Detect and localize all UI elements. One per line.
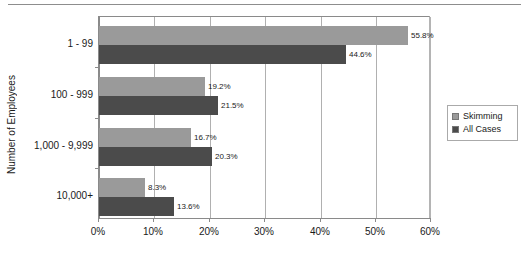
bar-skimming-10000-plus — [99, 178, 145, 197]
bar-all-cases-100-999 — [99, 96, 218, 115]
x-axis-label-30: 30% — [244, 226, 284, 238]
legend-label-skimming: Skimming — [463, 111, 503, 122]
value-label-skimming-10000-plus: 8.3% — [148, 183, 166, 192]
bar-chart: Number of Employees 55.8% 44.6% 19.2% 21… — [0, 0, 529, 262]
x-axis-label-50: 50% — [355, 226, 395, 238]
x-tick-40 — [320, 218, 321, 222]
value-label-all-cases-10000-plus: 13.6% — [177, 202, 200, 211]
value-label-all-cases-1-99: 44.6% — [349, 50, 372, 59]
bar-skimming-1-99 — [99, 26, 408, 45]
y-tick-3 — [95, 168, 99, 169]
x-axis-label-60: 60% — [410, 226, 450, 238]
legend-label-all-cases: All Cases — [463, 124, 501, 135]
category-label-1000-9999: 1,000 - 9,999 — [34, 140, 93, 152]
x-tick-10 — [153, 218, 154, 222]
category-label-10000-plus: 10,000+ — [57, 190, 93, 202]
bar-all-cases-1000-9999 — [99, 147, 212, 166]
value-label-skimming-100-999: 19.2% — [208, 82, 231, 91]
chart-legend: Skimming All Cases — [447, 105, 518, 141]
value-label-all-cases-100-999: 21.5% — [221, 101, 244, 110]
x-axis-label-10: 10% — [133, 226, 173, 238]
category-label-100-999: 100 - 999 — [51, 89, 93, 101]
category-label-1-99: 1 - 99 — [67, 38, 93, 50]
gridline-60 — [430, 17, 431, 219]
x-tick-0 — [98, 218, 99, 222]
x-tick-20 — [209, 218, 210, 222]
plot-area: 55.8% 44.6% 19.2% 21.5% 16.7% 20.3% 8.3%… — [98, 16, 430, 218]
y-tick-2 — [95, 118, 99, 119]
bar-all-cases-10000-plus — [99, 197, 174, 216]
value-label-skimming-1000-9999: 16.7% — [194, 133, 217, 142]
y-tick-1 — [95, 67, 99, 68]
gridline-50 — [376, 17, 377, 219]
value-label-skimming-1-99: 55.8% — [411, 31, 434, 40]
x-tick-30 — [264, 218, 265, 222]
legend-item-all-cases: All Cases — [452, 123, 513, 136]
legend-swatch-icon-skimming — [452, 113, 459, 120]
x-axis-label-20: 20% — [189, 226, 229, 238]
legend-item-skimming: Skimming — [452, 110, 513, 123]
bar-skimming-1000-9999 — [99, 128, 191, 147]
x-axis-label-0: 0% — [78, 226, 118, 238]
bar-skimming-100-999 — [99, 77, 205, 96]
x-tick-60 — [430, 218, 431, 222]
x-tick-50 — [375, 218, 376, 222]
x-axis-label-40: 40% — [300, 226, 340, 238]
value-label-all-cases-1000-9999: 20.3% — [215, 152, 238, 161]
bar-all-cases-1-99 — [99, 45, 346, 64]
legend-swatch-icon-all-cases — [452, 126, 459, 133]
y-axis-title: Number of Employees — [6, 50, 20, 200]
